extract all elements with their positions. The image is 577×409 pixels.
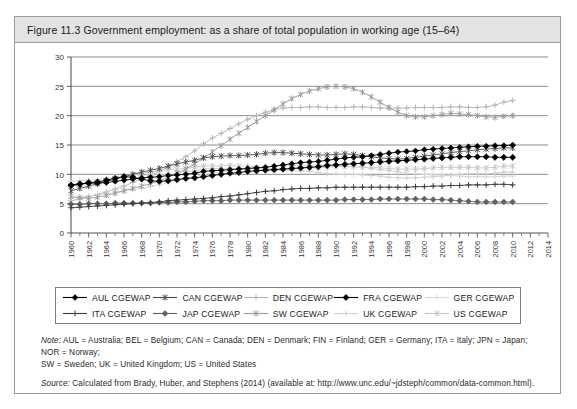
- x-tick-label: 2000: [420, 241, 429, 257]
- x-tick-label: 1994: [367, 241, 376, 257]
- x-tick-label: 1966: [120, 241, 129, 257]
- x-tick-label: 1984: [279, 241, 288, 257]
- chart-area: 0510152025301960196219641966196819701972…: [15, 43, 560, 291]
- x-tick-label: 1982: [261, 241, 270, 257]
- x-tick-label: 1962: [85, 241, 94, 257]
- legend-row: AUL CGEWAPCAN CGEWAPDEN CGEWAPFRA CGEWAP…: [62, 290, 514, 306]
- source-label: Source:: [41, 379, 70, 388]
- legend-marker: [243, 292, 269, 303]
- legend-label: UK CGEWAP: [363, 309, 417, 319]
- figure-title: Figure 11.3 Government employment: as a …: [15, 24, 459, 36]
- legend-item-ita[interactable]: ITA CGEWAP: [62, 308, 152, 319]
- x-tick-label: 1964: [102, 241, 111, 257]
- legend-item-sw[interactable]: SW CGEWAP: [243, 308, 333, 319]
- x-tick-label: 2006: [473, 241, 482, 257]
- legend-item-us[interactable]: US CGEWAP: [424, 308, 514, 319]
- legend-label: GER CGEWAP: [454, 293, 515, 303]
- note-line: Note: AUL = Australia; BEL = Belgium; CA…: [41, 335, 546, 359]
- x-tick-label: 1996: [385, 241, 394, 257]
- legend-label: FRA CGEWAP: [363, 293, 422, 303]
- y-tick-label: 0: [60, 229, 65, 238]
- note-text: AUL = Australia; BEL = Belgium; CAN = Ca…: [41, 336, 528, 357]
- series-fra: [68, 154, 516, 189]
- y-tick-label: 5: [60, 200, 65, 209]
- series-sw: [69, 83, 516, 201]
- x-tick-label: 1974: [191, 241, 200, 257]
- series-jap: [68, 196, 515, 207]
- x-tick-label: 1986: [297, 241, 306, 257]
- legend-marker: [333, 292, 359, 303]
- x-tick-label: 1970: [155, 241, 164, 257]
- note-label: Note:: [41, 336, 61, 345]
- legend-row: ITA CGEWAPJAP CGEWAPSW CGEWAPUK CGEWAPUS…: [62, 306, 514, 322]
- series-ita: [68, 181, 515, 210]
- y-tick-label: 20: [55, 112, 64, 121]
- x-tick-label: 2012: [526, 241, 535, 257]
- legend-item-jap[interactable]: JAP CGEWAP: [152, 308, 242, 319]
- legend-label: ITA CGEWAP: [92, 309, 147, 319]
- x-tick-label: 1978: [226, 241, 235, 257]
- legend-label: CAN CGEWAP: [182, 293, 242, 303]
- y-tick-label: 15: [55, 141, 64, 150]
- chart-legend: AUL CGEWAPCAN CGEWAPDEN CGEWAPFRA CGEWAP…: [55, 287, 521, 324]
- legend-label: AUL CGEWAP: [92, 293, 151, 303]
- x-tick-label: 1976: [208, 241, 217, 257]
- x-tick-label: 1998: [403, 241, 412, 257]
- legend-marker: [333, 308, 359, 319]
- x-tick-label: 1992: [350, 241, 359, 257]
- legend-marker: [152, 292, 178, 303]
- legend-item-aul[interactable]: AUL CGEWAP: [62, 292, 152, 303]
- x-tick-label: 2008: [491, 241, 500, 257]
- legend-marker: [152, 308, 178, 319]
- x-tick-label: 1990: [332, 241, 341, 257]
- note-line-2: SW = Sweden; UK = United Kingdom; US = U…: [41, 359, 546, 371]
- legend-marker: [424, 292, 450, 303]
- x-tick-label: 2014: [544, 241, 553, 257]
- legend-label: JAP CGEWAP: [182, 309, 240, 319]
- x-tick-label: 2004: [456, 241, 465, 257]
- legend-item-den[interactable]: DEN CGEWAP: [243, 292, 333, 303]
- legend-marker: [243, 308, 269, 319]
- legend-label: US CGEWAP: [454, 309, 508, 319]
- x-tick-label: 1980: [244, 241, 253, 257]
- line-chart: 0510152025301960196219641966196819701972…: [15, 43, 560, 291]
- x-tick-label: 1972: [173, 241, 182, 257]
- legend-label: DEN CGEWAP: [273, 293, 333, 303]
- legend-item-ger[interactable]: GER CGEWAP: [424, 292, 514, 303]
- legend-marker: [62, 308, 88, 319]
- figure-container: Figure 11.3 Government employment: as a …: [14, 16, 561, 394]
- source-text: Calculated from Brady, Huber, and Stephe…: [72, 379, 534, 388]
- y-tick-label: 10: [55, 171, 64, 180]
- legend-item-fra[interactable]: FRA CGEWAP: [333, 292, 423, 303]
- x-tick-label: 1968: [138, 241, 147, 257]
- x-tick-label: 1988: [314, 241, 323, 257]
- legend-marker: [424, 308, 450, 319]
- legend-item-uk[interactable]: UK CGEWAP: [333, 308, 423, 319]
- x-tick-label: 2010: [509, 241, 518, 257]
- x-tick-label: 1960: [67, 241, 76, 257]
- y-tick-label: 30: [55, 53, 64, 62]
- legend-item-can[interactable]: CAN CGEWAP: [152, 292, 242, 303]
- figure-header: Figure 11.3 Government employment: as a …: [15, 17, 560, 43]
- legend-marker: [62, 292, 88, 303]
- source-line: Source: Calculated from Brady, Huber, an…: [41, 378, 546, 390]
- y-tick-label: 25: [55, 83, 64, 92]
- figure-notes: Note: AUL = Australia; BEL = Belgium; CA…: [41, 335, 546, 390]
- legend-label: SW CGEWAP: [273, 309, 329, 319]
- x-tick-label: 2002: [438, 241, 447, 257]
